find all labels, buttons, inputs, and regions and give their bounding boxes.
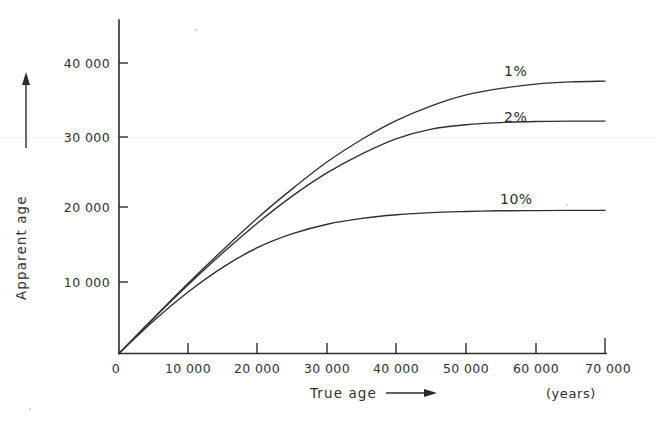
- up-arrow-icon: [22, 72, 30, 85]
- series-label-2-percent: 2%: [504, 109, 527, 125]
- x-axis-title: True age: [309, 385, 377, 401]
- scan-speck: [566, 204, 568, 206]
- x-tick-label-70000: 70 000: [585, 361, 631, 376]
- x-tick-label-50000: 50 000: [443, 361, 489, 376]
- chart-canvas: 40 000 30 000 20 000 10 000 0 10 000 20 …: [0, 0, 656, 422]
- series-label-1-percent: 1%: [504, 63, 527, 79]
- right-arrow-icon: [424, 389, 437, 397]
- chart-figure: 40 000 30 000 20 000 10 000 0 10 000 20 …: [0, 0, 656, 422]
- curve-2-percent: [119, 121, 605, 353]
- x-tick-label-10000: 10 000: [165, 361, 211, 376]
- x-axis-units-label: (years): [546, 386, 596, 401]
- y-axis-ticks: [119, 63, 128, 282]
- y-tick-label-20000: 20 000: [64, 200, 110, 215]
- x-tick-label-40000: 40 000: [373, 361, 419, 376]
- x-axis-title-group: True age: [309, 385, 437, 401]
- scan-speck: [195, 29, 198, 32]
- x-axis-ticks: [188, 338, 605, 354]
- series-label-10-percent: 10%: [500, 191, 533, 207]
- y-axis-title: Apparent age: [13, 195, 29, 300]
- x-tick-label-20000: 20 000: [234, 361, 280, 376]
- y-tick-label-40000: 40 000: [64, 56, 110, 71]
- x-tick-label-30000: 30 000: [304, 361, 350, 376]
- y-tick-label-10000: 10 000: [64, 275, 110, 290]
- origin-label: 0: [112, 361, 120, 376]
- y-axis-title-group: Apparent age: [13, 72, 30, 300]
- y-tick-label-30000: 30 000: [64, 130, 110, 145]
- x-tick-label-60000: 60 000: [513, 361, 559, 376]
- scan-speck: [29, 408, 31, 410]
